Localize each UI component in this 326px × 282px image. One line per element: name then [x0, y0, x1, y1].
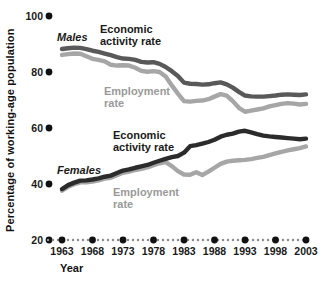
y-tick-label-20: 20 — [31, 234, 43, 246]
x-tick-label-1978: 1978 — [142, 245, 166, 257]
x-tick-dot-1993 — [242, 237, 249, 244]
annotation-females: Females — [57, 164, 101, 176]
x-tick-dot-1968 — [89, 237, 96, 244]
y-tick-dot-80 — [46, 69, 53, 76]
x-tick-dot-2003 — [303, 237, 310, 244]
y-axis-label: Percentage of working-age population — [4, 28, 16, 232]
y-tick-label-60: 60 — [31, 122, 43, 134]
annotation-males-economic-activity-rate-line1: Economic — [100, 23, 153, 35]
chart-svg: Percentage of working-age population 100… — [0, 0, 326, 282]
annotation-females-economic-activity-rate-line1: Economic — [113, 129, 166, 141]
x-tick-label-1963: 1963 — [50, 245, 74, 257]
annotation-males-economic-activity-rate-line2: activity rate — [100, 35, 161, 47]
x-tick-label-1993: 1993 — [233, 245, 257, 257]
x-tick-label-1983: 1983 — [172, 245, 196, 257]
x-tick-dot-1978 — [150, 237, 157, 244]
x-axis-label: Year — [60, 262, 84, 274]
y-tick-label-100: 100 — [25, 10, 43, 22]
y-tick-dot-40 — [46, 181, 53, 188]
x-tick-dot-1963 — [59, 237, 66, 244]
annotation-males-employment-rate-line1: Employment — [104, 85, 170, 97]
y-tick-label-40: 40 — [31, 178, 43, 190]
annotation-females-economic-activity-rate-line2: activity rate — [113, 141, 174, 153]
chart-container: Percentage of working-age population 100… — [0, 0, 326, 282]
annotation-females-employment-rate-line2: rate — [113, 198, 133, 210]
x-tick-label-1968: 1968 — [81, 245, 105, 257]
x-tick-dot-1983 — [181, 237, 188, 244]
y-tick-dot-60 — [46, 125, 53, 132]
x-tick-label-2003: 2003 — [294, 245, 318, 257]
annotation-males: Males — [57, 31, 88, 43]
x-tick-label-1988: 1988 — [203, 245, 227, 257]
x-tick-dot-1998 — [272, 237, 279, 244]
annotation-females-employment-rate-line1: Employment — [113, 186, 179, 198]
x-tick-label-1998: 1998 — [264, 245, 288, 257]
x-tick-dot-1988 — [211, 237, 218, 244]
x-tick-dot-1973 — [120, 237, 127, 244]
y-tick-dot-100 — [46, 13, 53, 20]
x-axis-tick-labels: 196319681973197819831988199319982003 — [50, 245, 318, 257]
x-tick-label-1973: 1973 — [111, 245, 135, 257]
annotation-males-employment-rate-line2: rate — [104, 97, 124, 109]
y-tick-label-80: 80 — [31, 66, 43, 78]
